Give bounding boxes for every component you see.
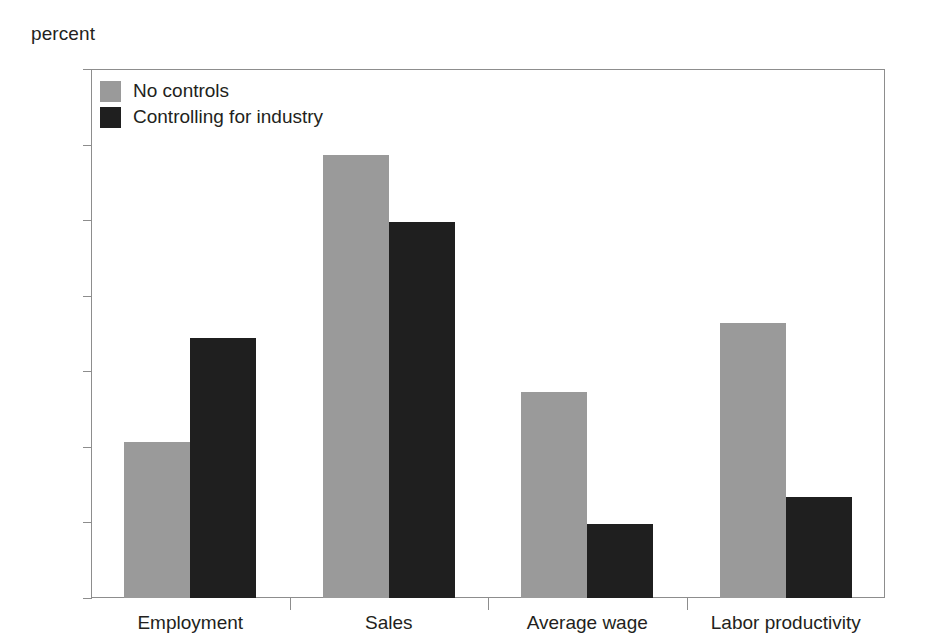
bar-group — [488, 69, 687, 598]
bar-group — [91, 69, 290, 598]
legend-label: No controls — [133, 80, 229, 102]
x-axis-tick-label: Sales — [365, 612, 413, 634]
x-axis-tick-label: Average wage — [527, 612, 648, 634]
bar — [521, 392, 587, 598]
x-axis-tick-label: Labor productivity — [711, 612, 861, 634]
x-axis-tick-label: Employment — [137, 612, 243, 634]
bar-group — [687, 69, 886, 598]
x-axis-separator — [290, 598, 291, 610]
bar-group — [290, 69, 489, 598]
bar — [720, 323, 786, 598]
legend-label: Controlling for industry — [133, 106, 323, 128]
bar — [786, 497, 852, 598]
bars-layer — [91, 69, 885, 598]
legend-swatch-icon — [100, 107, 121, 128]
y-axis-unit-label: percent — [31, 23, 95, 45]
y-axis-tick-mark — [83, 598, 92, 599]
legend-swatch-icon — [100, 81, 121, 102]
x-axis-separator — [687, 598, 688, 610]
bar — [323, 155, 389, 598]
bar — [124, 442, 190, 598]
legend-item-controlling-for-industry: Controlling for industry — [100, 104, 323, 130]
legend: No controls Controlling for industry — [100, 78, 323, 130]
bar-chart: percent 020406080100120140 EmploymentSal… — [0, 0, 925, 637]
bar — [389, 222, 455, 598]
x-axis-separator — [488, 598, 489, 610]
legend-item-no-controls: No controls — [100, 78, 323, 104]
bar — [587, 524, 653, 598]
bar — [190, 338, 256, 598]
